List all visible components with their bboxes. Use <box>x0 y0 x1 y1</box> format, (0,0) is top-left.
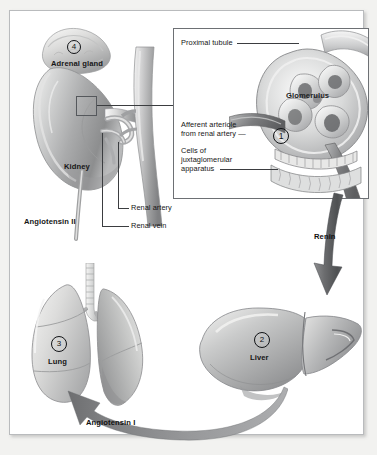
label-renal-artery: Renal artery <box>131 204 172 213</box>
renin-arrow <box>305 191 360 311</box>
magnification-connector-line <box>97 105 174 106</box>
label-glomerulus: Glomerulus <box>286 92 329 101</box>
glomerulus-illustration <box>229 28 369 199</box>
label-proximal-tubule: Proximal tubule <box>181 39 233 48</box>
jga-leader <box>220 169 278 170</box>
label-kidney: Kidney <box>64 163 90 172</box>
magnification-region-box <box>76 96 97 116</box>
label-renal-vein: Renal vein <box>131 222 166 231</box>
label-afferent-arteriole-line2: from renal artery — <box>181 130 246 139</box>
label-jga-line3: apparatus <box>181 165 214 174</box>
renal-vein-leader-horizontal <box>102 226 129 227</box>
label-renin: Renin <box>314 233 336 242</box>
marker-3-lung: 3 <box>51 336 67 352</box>
marker-2-liver: 2 <box>254 332 270 348</box>
label-adrenal-gland: Adrenal gland <box>51 60 103 69</box>
figure-panel: 4 Adrenal gland Kidney Angiotensin II Re… <box>9 10 364 435</box>
label-lung: Lung <box>48 358 67 367</box>
figure-canvas: 4 Adrenal gland Kidney Angiotensin II Re… <box>0 0 377 455</box>
label-liver: Liver <box>250 354 269 363</box>
glomerulus-inset-panel: Proximal tubule Afferent arteriole from … <box>173 28 369 199</box>
proximal-tubule-leader <box>237 43 299 44</box>
marker-4-adrenal-gland: 4 <box>67 40 81 54</box>
label-angiotensin-ii: Angiotensin II <box>24 218 76 227</box>
marker-1-juxtaglomerular-apparatus: 1 <box>273 128 289 144</box>
renal-artery-leader-horizontal <box>118 208 129 209</box>
renal-artery-leader-vertical <box>118 142 119 208</box>
angiotensin-i-arrow <box>58 381 288 441</box>
renal-vein-leader-vertical <box>102 133 103 226</box>
label-angiotensin-i: Angiotensin I <box>86 419 135 428</box>
